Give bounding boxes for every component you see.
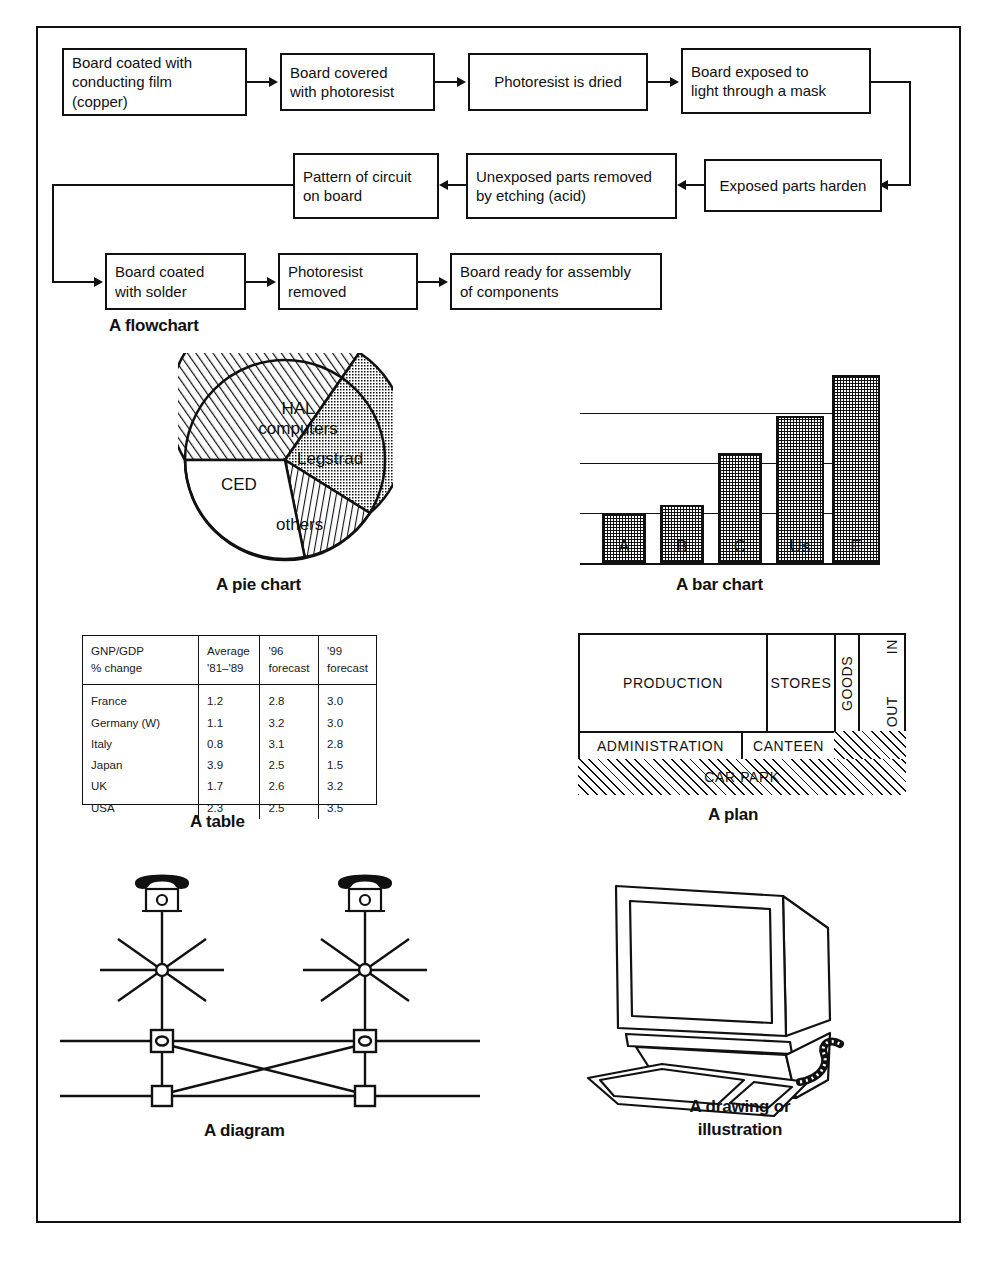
bar-label-B: B	[676, 537, 687, 561]
arrow-icon	[267, 277, 276, 287]
arrow-icon	[677, 180, 686, 190]
connector-4-wrap-v	[909, 81, 911, 186]
arrow-icon	[439, 277, 448, 287]
connector-7-wrap-v	[52, 184, 54, 283]
cell-f96: 3.2	[260, 713, 319, 734]
cell-f96: 2.6	[260, 776, 319, 797]
cell-f99: 1.5	[319, 755, 376, 776]
cell-f96: 2.5	[260, 755, 319, 776]
data-table: GNP/GDP % change Average '81–'89 '96 for…	[82, 635, 377, 805]
flowchart-box-6: Unexposed parts removed by etching (acid…	[466, 153, 677, 219]
table-header-96: '96 forecast	[260, 636, 319, 685]
flow-text: Board coated	[115, 262, 204, 281]
cell-f96: 2.8	[260, 685, 319, 713]
cell-country: USA	[83, 798, 199, 819]
diagram-caption: A diagram	[204, 1121, 285, 1141]
cell-avg: 0.8	[199, 734, 260, 755]
drawing-caption-line1: A drawing or	[630, 1096, 850, 1119]
bar-A: A	[602, 513, 646, 563]
flow-text: Board covered	[290, 63, 394, 82]
flowchart-box-3: Photoresist is dried	[468, 53, 648, 111]
arrow-icon	[439, 180, 448, 190]
table-header-99: '99 forecast	[319, 636, 376, 685]
bar-label-Us2: Us	[790, 537, 811, 561]
connector-4-wrap-h	[871, 81, 911, 83]
flow-text: (copper)	[72, 92, 192, 111]
diagram-svg	[60, 863, 480, 1118]
cell-f96: 2.5	[260, 798, 319, 819]
plan-label-in: IN	[884, 639, 900, 654]
flowchart-box-5: Exposed parts harden	[704, 159, 882, 212]
cell-avg: 1.2	[199, 685, 260, 713]
th-line2: % change	[91, 660, 190, 677]
flowchart-caption: A flowchart	[109, 316, 199, 336]
cell-f99: 3.0	[319, 685, 376, 713]
pie-chart: HAL computers HAL computers Legstrad oth…	[178, 353, 393, 578]
flow-text: Board exposed to	[691, 62, 826, 81]
arrow-icon	[457, 77, 466, 87]
pie-label-others: others	[276, 515, 323, 535]
flow-text: on board	[303, 186, 411, 205]
pie-label-legstrad: Legstrad	[297, 449, 363, 469]
pie-label-hal-a: HAL	[281, 399, 314, 418]
table-row: Japan 3.9 2.5 1.5	[83, 755, 376, 776]
cell-f99: 3.0	[319, 713, 376, 734]
flow-text: Photoresist is dried	[494, 72, 622, 91]
monitor-side	[783, 896, 830, 1036]
pie-label-hal-b: computers	[258, 419, 337, 438]
bar-C: C	[718, 453, 762, 563]
figure-border: Board coated with conducting film (coppe…	[36, 26, 961, 1223]
drawing-section: A drawing or illustration	[578, 868, 908, 1168]
telephone-icon-left	[136, 876, 188, 912]
flow-text: Board ready for assembly	[460, 262, 631, 281]
pie-caption: A pie chart	[216, 575, 301, 595]
th-line1: Average	[207, 643, 251, 660]
telephone-icon-right	[339, 876, 391, 912]
th-line1: GNP/GDP	[91, 643, 190, 660]
table-row: Germany (W) 1.1 3.2 3.0	[83, 713, 376, 734]
flowchart-box-7: Pattern of circuit on board	[293, 153, 439, 219]
table-head: GNP/GDP % change Average '81–'89 '96 for…	[83, 636, 376, 685]
th-line2: forecast	[327, 660, 368, 677]
flowchart-box-8: Board coated with solder	[105, 253, 246, 310]
connector-wrap-8-h	[52, 281, 97, 283]
diagram-section: A diagram	[60, 863, 480, 1153]
bar-E: E	[832, 375, 880, 563]
monitor-screen	[630, 901, 772, 1023]
plan-room-administration: ADMINISTRATION	[578, 731, 743, 761]
cell-f99: 3.5	[319, 798, 376, 819]
cell-country: UK	[83, 776, 199, 797]
cell-avg: 1.7	[199, 776, 260, 797]
cell-avg: 3.9	[199, 755, 260, 776]
plan-room-car-park: CAR PARK	[578, 759, 906, 795]
plan-room-stores: STORES	[766, 633, 836, 733]
bar-label-E: E	[850, 537, 861, 561]
flow-text: Pattern of circuit	[303, 167, 411, 186]
pie-label-hal: HAL computers	[238, 399, 358, 440]
bar-Us: Us	[776, 416, 824, 563]
flowchart-box-4: Board exposed to light through a mask	[681, 48, 871, 114]
th-line1: '96	[268, 643, 310, 660]
flow-text: Board coated with	[72, 53, 192, 72]
flow-text: Photoresist	[288, 262, 363, 281]
plan-room-inout: IN OUT	[858, 633, 906, 733]
arrow-icon	[94, 277, 103, 287]
flowchart-box-1: Board coated with conducting film (coppe…	[62, 48, 247, 116]
flowchart-box-2: Board covered with photoresist	[280, 53, 435, 111]
plan-room-goods: GOODS	[834, 633, 860, 733]
flow-text: Exposed parts harden	[720, 176, 867, 195]
flow-text: with solder	[115, 282, 204, 301]
bar-baseline	[580, 563, 880, 565]
table-header-country: GNP/GDP % change	[83, 636, 199, 685]
cell-f96: 3.1	[260, 734, 319, 755]
drawing-caption-line2: illustration	[630, 1119, 850, 1142]
flow-text: with photoresist	[290, 82, 394, 101]
flow-text: by etching (acid)	[476, 186, 652, 205]
table-caption: A table	[190, 812, 245, 832]
table-body: France 1.2 2.8 3.0 Germany (W) 1.1 3.2 3…	[83, 685, 376, 819]
drawing-caption: A drawing or illustration	[630, 1096, 850, 1142]
cell-avg: 1.1	[199, 713, 260, 734]
flowchart-box-9: Photoresist removed	[278, 253, 418, 310]
cell-f99: 2.8	[319, 734, 376, 755]
cell-country: France	[83, 685, 199, 713]
